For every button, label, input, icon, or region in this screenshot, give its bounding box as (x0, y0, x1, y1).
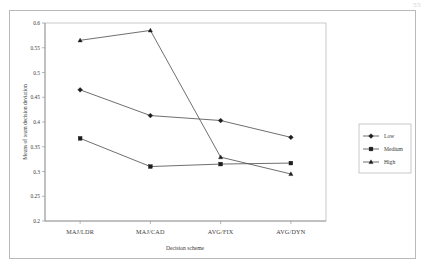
y-tick-label: 0.45 (31, 94, 41, 100)
figure-frame: 0.20.250.30.350.40.450.50.550.6 MAJ/LDRM… (9, 10, 416, 259)
y-axis-title: Means of team decision deviation (22, 84, 28, 160)
y-tick-label: 0.25 (31, 193, 41, 199)
marker-diamond (78, 87, 83, 92)
y-axis-ticks: 0.20.250.30.350.40.450.50.550.6 (31, 20, 45, 224)
page-canvas: 55 0.20.250.30.350.40.450.50.550.6 MAJ/L… (0, 0, 425, 270)
legend-label: High (384, 159, 395, 165)
y-tick-label: 0.6 (33, 20, 40, 26)
marker-square (369, 147, 373, 151)
marker-triangle (219, 155, 223, 159)
line-chart: 0.20.250.30.350.40.450.50.550.6 MAJ/LDRM… (10, 11, 415, 258)
marker-triangle (148, 28, 152, 32)
legend-label: Medium (384, 146, 404, 152)
series-layer (78, 28, 294, 175)
marker-diamond (289, 135, 294, 140)
series-line-low (80, 90, 291, 138)
series-line-high (80, 30, 291, 174)
x-tick-label: MAJ/LDR (66, 228, 95, 235)
y-tick-label: 0.3 (33, 169, 40, 175)
marker-square (78, 136, 82, 140)
marker-square (219, 162, 223, 166)
x-tick-label: AVG/DYN (276, 228, 305, 235)
page-number-artifact: 55 (413, 1, 421, 9)
legend-label: Low (384, 133, 395, 139)
x-axis-title: Decision scheme (166, 245, 205, 251)
y-tick-label: 0.55 (31, 45, 41, 51)
marker-diamond (218, 118, 223, 123)
marker-diamond (148, 113, 153, 118)
chart-legend: LowMediumHigh (359, 124, 411, 173)
x-tick-label: AVG/FIX (208, 228, 234, 235)
y-tick-label: 0.5 (33, 70, 40, 76)
chart-svg: 0.20.250.30.350.40.450.50.550.6 MAJ/LDRM… (10, 11, 417, 260)
series-line-medium (80, 138, 291, 166)
x-tick-label: MAJ/CAD (136, 228, 165, 235)
plot-area-border (45, 23, 326, 221)
y-tick-label: 0.35 (31, 144, 41, 150)
x-axis-ticks: MAJ/LDRMAJ/CADAVG/FIXAVG/DYN (66, 221, 306, 235)
y-tick-label: 0.4 (33, 119, 40, 125)
y-tick-label: 0.2 (33, 218, 40, 224)
marker-square (289, 161, 293, 165)
marker-square (148, 165, 152, 169)
